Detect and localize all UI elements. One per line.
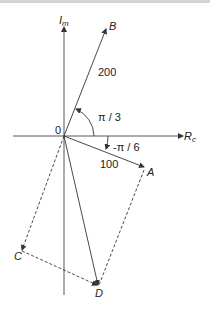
origin-label: 0: [55, 124, 61, 136]
angle-arc-b: [76, 109, 94, 136]
point-a-label: A: [146, 166, 154, 178]
vector-c: [22, 136, 64, 250]
angle-a-label: -π / 6: [113, 141, 140, 153]
magnitude-b-label: 200: [98, 66, 116, 78]
magnitude-a-label: 100: [100, 158, 118, 170]
vector-d: [64, 136, 98, 285]
angle-arc-a: [106, 136, 108, 149]
point-d-label: D: [95, 287, 103, 299]
phasor-diagram: Im Rc 0 B A C D 200 100 π / 3 -π / 6: [0, 0, 210, 311]
dashed-c-to-d: [22, 251, 97, 285]
point-c-label: C: [14, 250, 22, 262]
dashed-a-to-d: [99, 170, 144, 285]
angle-b-label: π / 3: [98, 111, 121, 123]
real-axis-label: Rc: [184, 130, 196, 144]
point-b-label: B: [109, 20, 116, 32]
imaginary-axis-label: Im: [59, 14, 69, 28]
